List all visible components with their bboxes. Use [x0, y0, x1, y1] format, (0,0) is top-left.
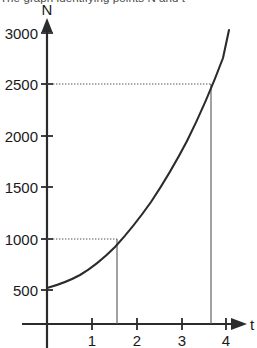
y-tick-label-2000: 2000 — [5, 128, 38, 145]
y-tick-label-1000: 1000 — [5, 231, 38, 248]
chart-svg: 3000 2500 2000 1500 1000 500 1 2 3 4 N t — [0, 0, 257, 348]
y-tick-label-1500: 1500 — [5, 179, 38, 196]
figure-container: The graph identifying points N and t 300… — [0, 0, 257, 348]
y-axis-label: N — [42, 1, 53, 18]
y-axis-arrowhead — [42, 18, 53, 32]
x-tick-label-3: 3 — [178, 332, 186, 348]
y-tick-label-3000: 3000 — [5, 25, 38, 42]
x-axis-arrowhead — [231, 318, 247, 330]
x-axis-label: t — [250, 316, 255, 333]
data-curve — [47, 30, 229, 288]
y-tick-label-2500: 2500 — [5, 76, 38, 93]
y-tick-label-500: 500 — [13, 282, 38, 299]
x-tick-label-2: 2 — [133, 332, 141, 348]
x-tick-label-1: 1 — [88, 332, 96, 348]
x-tick-label-4: 4 — [222, 332, 230, 348]
